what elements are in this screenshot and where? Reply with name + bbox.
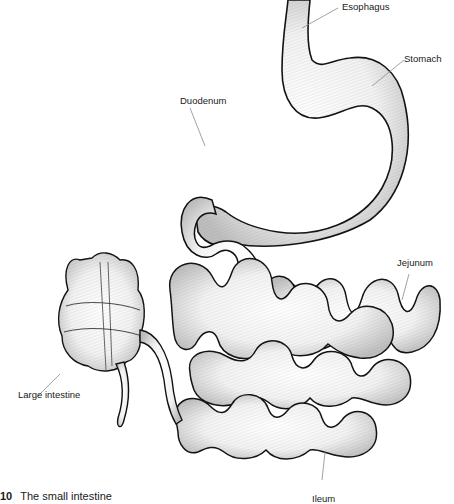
caption-number: 10 <box>0 490 12 502</box>
label-large-intestine: Large intestine <box>18 390 80 400</box>
anatomy-drawing <box>0 0 454 504</box>
stomach-shape <box>196 0 408 246</box>
figure-caption: 10The small intestine <box>0 491 112 502</box>
label-duodenum: Duodenum <box>180 96 226 106</box>
label-jejunum: Jejunum <box>397 258 433 268</box>
caption-text: The small intestine <box>20 490 112 502</box>
label-esophagus: Esophagus <box>342 2 390 12</box>
small-intestine-illustration: Esophagus Stomach Duodenum Jejunum Large… <box>0 0 454 504</box>
label-stomach: Stomach <box>404 54 442 64</box>
jejunum-leader-line <box>402 274 409 300</box>
ileum-leader-line <box>322 452 325 480</box>
large-intestine-shape <box>59 253 182 427</box>
duodenum-leader-line <box>190 108 205 146</box>
label-ileum: Ileum <box>312 494 335 504</box>
